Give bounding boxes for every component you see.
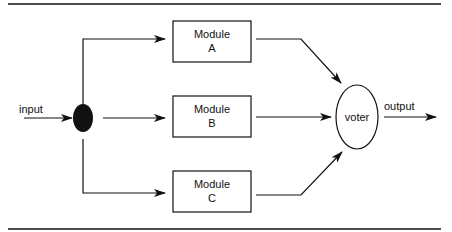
module-c: Module C [173,171,251,212]
voter-label: voter [345,111,370,123]
fanout-node [73,104,93,132]
tmr-diagram: input Module A Module B Module C voter o… [0,0,452,232]
svg-text:A: A [208,42,216,54]
input-label: input [19,103,43,115]
svg-text:C: C [208,192,216,204]
module-b: Module B [173,96,251,137]
module-a: Module A [173,21,251,62]
svg-text:B: B [208,117,215,129]
c-to-voter [256,152,342,195]
output-label: output [384,100,415,112]
a-to-voter [256,39,341,83]
branch-to-a [83,39,165,104]
svg-text:Module: Module [194,103,230,115]
svg-text:Module: Module [194,178,230,190]
svg-text:Module: Module [194,28,230,40]
branch-to-c [83,139,165,193]
